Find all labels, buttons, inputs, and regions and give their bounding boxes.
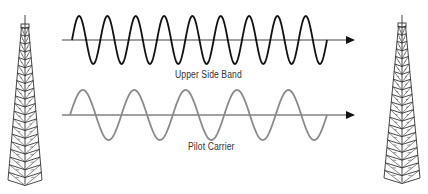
arrow-head-icon: [346, 111, 355, 119]
pilot-carrier-wave: [62, 90, 355, 140]
pilot-carrier-label: Pilot Carrier: [188, 141, 235, 152]
upper-side-band-wave: [62, 16, 355, 64]
arrow-head-icon: [346, 36, 355, 44]
right-radio-tower-icon: [384, 15, 420, 184]
left-radio-tower-icon: [8, 15, 42, 186]
upper-side-band-label: Upper Side Band: [175, 69, 242, 80]
diagram-svg: [0, 0, 428, 194]
diagram-canvas: Upper Side Band Pilot Carrier: [0, 0, 428, 194]
